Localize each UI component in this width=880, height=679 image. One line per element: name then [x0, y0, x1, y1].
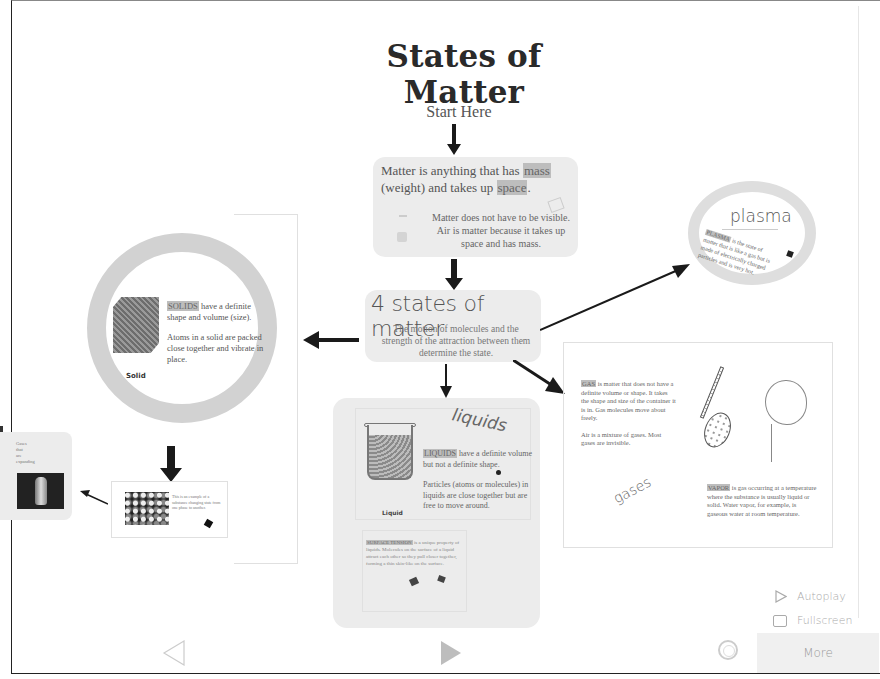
fullscreen-label: Fullscreen [797, 614, 852, 627]
solid-cube-image [113, 297, 159, 353]
fullscreen-icon [773, 615, 787, 627]
play-outline-icon [775, 590, 787, 603]
presentation-title: States of Matter [344, 38, 584, 110]
phase-change-text: This is an example of a substance changi… [172, 494, 222, 511]
matter-definition-text: Matter is anything that has mass (weight… [381, 162, 576, 196]
arrow-left-icon [303, 331, 359, 349]
matter-definition-card[interactable]: Matter is anything that has mass (weight… [373, 157, 578, 257]
arrow-down-icon [445, 259, 463, 291]
autoplay-button[interactable]: Autoplay [775, 590, 846, 603]
arrow-down-right-icon [513, 360, 565, 394]
decoration [397, 232, 407, 242]
more-button[interactable]: More [757, 633, 879, 673]
decoration [496, 470, 501, 475]
canvas-edge [858, 6, 859, 618]
help-lifebuoy-icon[interactable] [718, 640, 738, 660]
gas-expanding-text: Gases that are expanding [16, 441, 35, 465]
balloon-image [765, 380, 807, 425]
liquid-image-label: Liquid [382, 509, 403, 516]
beaker-image [367, 425, 413, 480]
next-step-button[interactable] [440, 641, 462, 665]
surface-tension-text: SURFACE TENSION is a unique property of … [366, 539, 464, 567]
solid-image-label: Solid [126, 372, 146, 380]
four-states-text: The motion of molecules and the strength… [381, 323, 531, 359]
liquids-description: LIQUIDS have a definite volume but not a… [423, 449, 533, 522]
start-here-label[interactable]: Start Here [384, 103, 534, 121]
balloon-string [771, 424, 772, 462]
vapor-description: VAPOR is gas occurring at a temperature … [707, 484, 817, 518]
solid-description: SOLIDS have a definite shape and volume … [167, 301, 267, 374]
arrow-up-right-icon [540, 264, 690, 332]
fullscreen-button[interactable]: Fullscreen [773, 614, 852, 627]
plasma-title: plasma [730, 206, 792, 226]
arrow-down-icon [160, 446, 182, 482]
previous-step-button[interactable] [162, 640, 186, 666]
arrow-down-icon [446, 124, 462, 156]
plasma-underline [722, 229, 778, 230]
phase-change-image [125, 492, 169, 525]
arrow-left-icon [80, 490, 108, 506]
autoplay-label: Autoplay [797, 590, 846, 603]
matter-visibility-text: Matter does not have to be visible. Air … [431, 211, 571, 250]
decoration [399, 215, 407, 217]
gas-bottle-image [17, 473, 64, 509]
arrow-down-icon [440, 364, 452, 398]
four-states-card[interactable]: 4 states of matter The motion of molecul… [365, 290, 541, 362]
gases-description: GAS is matter that does not have a defin… [581, 380, 676, 456]
